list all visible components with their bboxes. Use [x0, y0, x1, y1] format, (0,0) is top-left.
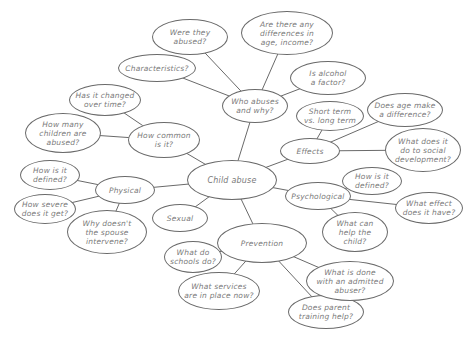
node-changed-over-time: Has it changed over time?	[69, 84, 141, 116]
node-sexual: Sexual	[152, 204, 208, 232]
node-label: Effects	[296, 147, 323, 156]
node-label: What can help the child?	[336, 219, 373, 246]
node-label: How is it defined?	[355, 172, 389, 190]
node-physical-defined: How is it defined?	[20, 160, 80, 190]
node-label: What services are in place now?	[184, 282, 253, 300]
node-label: Characteristics?	[125, 64, 188, 73]
node-how-severe: How severe does it get?	[14, 194, 76, 224]
node-label: How common is it?	[137, 131, 190, 149]
mind-map: Child abuseWho abuses and why?Were they …	[0, 0, 469, 338]
node-label: Does parent training help?	[299, 303, 353, 321]
node-prevention: Prevention	[217, 223, 307, 263]
node-label: Prevention	[241, 239, 283, 248]
node-were-they-abused: Were they abused?	[152, 19, 228, 55]
node-label: What effect does it have?	[403, 199, 456, 217]
node-label: Sexual	[167, 214, 193, 223]
node-label: Short term vs. long term	[304, 107, 356, 125]
node-label: Is alcohol a factor?	[309, 69, 346, 87]
node-label: How is it defined?	[33, 166, 67, 184]
node-label: What does it do to social development?	[395, 137, 451, 164]
node-short-long: Short term vs. long term	[296, 101, 364, 131]
node-psychological: Psychological	[285, 182, 351, 210]
node-child-abuse: Child abuse	[187, 160, 277, 200]
node-services: What services are in place now?	[178, 272, 260, 310]
node-admitted-abuser: What is done with an admitted abuser?	[306, 261, 394, 301]
node-label: How severe does it get?	[22, 200, 68, 218]
node-how-many: How many children are abused?	[25, 113, 101, 153]
node-schools: What do schools do?	[164, 241, 222, 273]
node-label: Has it changed over time?	[75, 91, 134, 109]
node-label: How many children are abused?	[39, 120, 86, 147]
node-effects: Effects	[280, 138, 340, 164]
node-label: Why doesn't the spouse intervene?	[83, 219, 132, 246]
node-help-child: What can help the child?	[322, 212, 388, 252]
node-label: Were they abused?	[170, 28, 211, 46]
node-how-common: How common is it?	[128, 122, 200, 158]
node-label: Are there any differences in age, income…	[260, 20, 314, 47]
node-age-difference: Does age make a difference?	[367, 93, 443, 127]
node-label: Physical	[109, 186, 141, 195]
node-label: Child abuse	[207, 176, 256, 185]
node-social-development: What does it do to social development?	[385, 128, 461, 172]
node-label: Psychological	[291, 192, 344, 201]
node-label: Who abuses and why?	[231, 97, 279, 115]
node-what-effect: What effect does it have?	[395, 192, 463, 224]
node-label: What do schools do?	[170, 248, 216, 266]
node-characteristics: Characteristics?	[118, 54, 196, 82]
node-spouse-intervene: Why doesn't the spouse intervene?	[67, 210, 147, 254]
node-who-abuses: Who abuses and why?	[222, 89, 288, 123]
node-differences: Are there any differences in age, income…	[241, 11, 333, 55]
node-psych-defined: How is it defined?	[342, 167, 402, 195]
node-alcohol: Is alcohol a factor?	[290, 61, 366, 95]
node-label: Does age make a difference?	[374, 101, 435, 119]
faint-footer-text	[0, 326, 469, 338]
node-label: What is done with an admitted abuser?	[316, 268, 383, 295]
node-physical: Physical	[95, 176, 155, 204]
